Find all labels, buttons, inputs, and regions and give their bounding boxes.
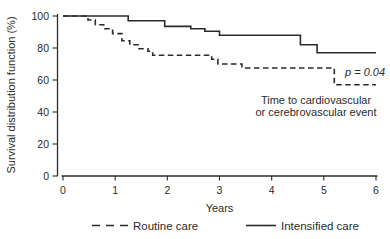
legend-label-routine: Routine care: [133, 220, 198, 232]
x-tick-label: 1: [112, 184, 118, 196]
y-tick-label: 0: [43, 170, 49, 182]
survival-figure: 020406080100 Survival distribution funct…: [0, 0, 390, 239]
x-tick-label: 3: [217, 184, 223, 196]
legend: Routine care Intensified care: [92, 220, 359, 232]
x-axis-ticks: 0123456: [60, 176, 379, 196]
y-tick-label: 100: [31, 10, 49, 22]
event-note-line1: Time to cardiovascular: [261, 94, 372, 106]
y-axis-ticks: 020406080100: [31, 10, 57, 182]
x-tick-label: 6: [373, 184, 379, 196]
survival-chart: 020406080100 Survival distribution funct…: [0, 0, 390, 239]
routine-care-curve: [63, 16, 376, 85]
x-axis-label: Years: [206, 202, 234, 214]
x-tick-label: 0: [60, 184, 66, 196]
curves: [63, 16, 376, 85]
y-tick-label: 40: [37, 106, 49, 118]
y-axis: 020406080100 Survival distribution funct…: [5, 10, 58, 182]
y-tick-label: 80: [37, 42, 49, 54]
event-note-line2: or cerebrovascular event: [255, 106, 376, 118]
intensified-care-curve: [63, 16, 376, 53]
y-tick-label: 20: [37, 138, 49, 150]
y-tick-label: 60: [37, 74, 49, 86]
x-tick-label: 2: [164, 184, 170, 196]
legend-label-intensified: Intensified care: [281, 220, 359, 232]
x-tick-label: 4: [269, 184, 275, 196]
x-axis: 0123456 Years: [60, 176, 379, 214]
p-value-label: p = 0.04: [344, 66, 385, 78]
y-axis-label: Survival distribution function (%): [5, 16, 17, 173]
x-tick-label: 5: [321, 184, 327, 196]
